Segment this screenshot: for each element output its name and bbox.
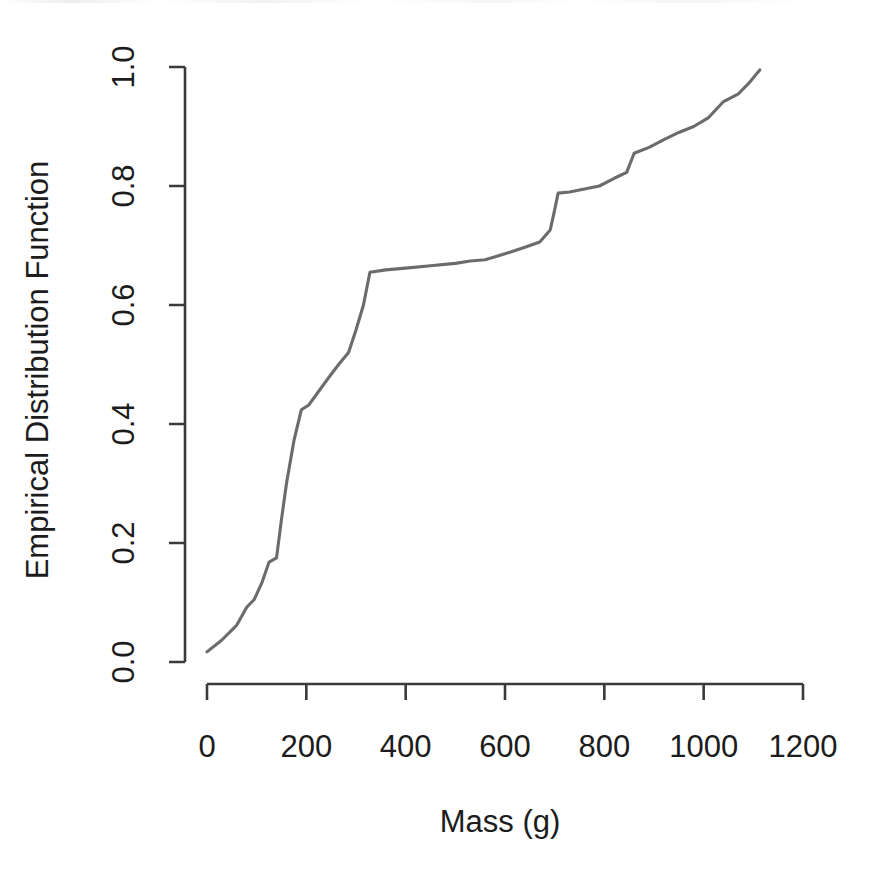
y-tick-label: 0.6 (106, 283, 141, 326)
x-tick-labels: 020040060080010001200 (198, 729, 837, 764)
x-tick-label: 0 (198, 729, 215, 764)
x-tick-label: 1200 (769, 729, 838, 764)
x-tick-label: 200 (280, 729, 332, 764)
x-tick-label: 1000 (669, 729, 738, 764)
y-tick-labels: 0.00.20.40.60.81.0 (106, 45, 141, 683)
y-tick-label: 0.2 (106, 521, 141, 564)
chart-figure: 0.00.20.40.60.81.0 020040060080010001200… (0, 0, 879, 880)
x-axis-title: Mass (g) (440, 804, 561, 839)
y-axis-line (169, 67, 185, 662)
x-tick-label: 800 (578, 729, 630, 764)
y-tick-label: 0.0 (106, 640, 141, 683)
y-tick-label: 0.8 (106, 164, 141, 207)
x-axis-line (207, 684, 803, 700)
y-tick-label: 1.0 (106, 45, 141, 88)
x-tick-label: 600 (479, 729, 531, 764)
x-tick-label: 400 (380, 729, 432, 764)
edf-plot: 0.00.20.40.60.81.0 020040060080010001200… (0, 0, 879, 880)
y-tick-label: 0.4 (106, 402, 141, 445)
y-axis-title: Empirical Distribution Function (20, 161, 55, 580)
edf-curve (207, 70, 760, 652)
